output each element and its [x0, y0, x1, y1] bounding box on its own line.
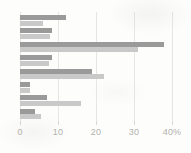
bar	[20, 95, 47, 100]
bar	[20, 114, 41, 119]
bar	[20, 74, 104, 79]
bar	[20, 88, 30, 93]
bar	[20, 42, 164, 47]
bar	[20, 28, 52, 33]
x-axis-tick-label: 0	[17, 127, 22, 137]
x-axis-tick-label: 30	[129, 127, 139, 137]
bar-chart: 010203040%	[0, 0, 191, 153]
plot-area: 010203040%	[0, 0, 191, 153]
bar	[20, 34, 50, 39]
tick-mark-x-10	[58, 121, 59, 125]
gridline-x-20	[96, 12, 97, 121]
bar	[20, 61, 49, 66]
bar	[20, 69, 92, 74]
bar	[20, 15, 66, 20]
gridline-x-30	[134, 12, 135, 121]
x-axis-tick-label: 40%	[163, 127, 182, 137]
x-axis-tick-label: 20	[91, 127, 101, 137]
bar	[20, 82, 30, 87]
tick-mark-x-40	[172, 121, 173, 125]
tick-mark-x-0	[20, 121, 21, 125]
bar	[20, 101, 81, 106]
bar	[20, 47, 138, 52]
gridline-x-40	[172, 12, 173, 121]
x-axis-tick-label: 10	[53, 127, 63, 137]
bar	[20, 55, 52, 60]
bar	[20, 109, 35, 114]
tick-mark-x-20	[96, 121, 97, 125]
bar	[20, 21, 43, 26]
tick-mark-x-30	[134, 121, 135, 125]
